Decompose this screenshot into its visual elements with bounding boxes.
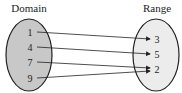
range-title: Range — [143, 2, 171, 14]
domain-title: Domain — [11, 2, 47, 14]
arrow-9-to-2 — [37, 71, 150, 78]
mapping-diagram: Domain Range 1 4 7 9 3 5 2 — [0, 0, 182, 93]
arrow-1-to-3 — [37, 32, 150, 39]
range-value-3: 3 — [155, 34, 160, 45]
domain-value-9: 9 — [28, 73, 33, 84]
domain-value-1: 1 — [28, 27, 33, 38]
range-value-2: 2 — [155, 64, 160, 75]
domain-value-7: 7 — [28, 57, 33, 68]
range-value-5: 5 — [155, 49, 160, 60]
domain-value-4: 4 — [28, 42, 33, 53]
